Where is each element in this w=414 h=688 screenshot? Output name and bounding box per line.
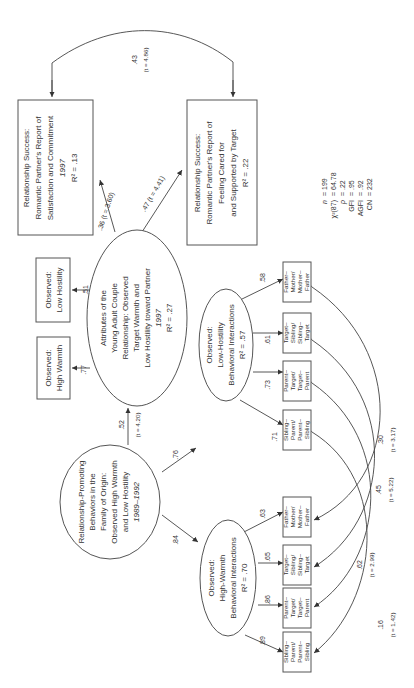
svg-text:High Warmth: High Warmth	[55, 345, 64, 391]
svg-text:= 232: = 232	[366, 178, 373, 196]
svg-text:Mother–: Mother–	[296, 505, 303, 528]
svg-text:Target/: Target/	[289, 371, 296, 390]
svg-text:n: n	[321, 200, 328, 204]
svg-text:Father–: Father–	[282, 506, 289, 528]
svg-text:Target Warmth and: Target Warmth and	[132, 284, 141, 352]
svg-text:Mother–: Mother–	[296, 270, 303, 293]
svg-text:Sibling–: Sibling–	[296, 553, 303, 576]
svg-text:Sibling–: Sibling–	[296, 321, 303, 344]
svg-text:Sibling/: Sibling/	[289, 555, 296, 576]
path-diagram: Relationship Success: Romantic Partner's…	[0, 0, 414, 688]
svg-text:Parent–: Parent–	[282, 370, 289, 392]
svg-text:Low Hostility: Low Hostility	[55, 268, 64, 313]
coef-family-high-warmth-int: .84	[172, 535, 179, 545]
svg-text:Relationship: Observed: Relationship: Observed	[121, 276, 130, 359]
svg-text:Attributes of the: Attributes of the	[99, 289, 108, 346]
svg-text:Target/: Target/	[289, 598, 296, 617]
svg-text:.30: .30	[377, 435, 384, 445]
svg-text:Parent: Parent	[303, 599, 310, 618]
svg-text:Relationship Success:: Relationship Success:	[22, 129, 31, 208]
coef-couple-low-hostility: .51	[82, 285, 89, 295]
svg-text:(t = 5.22): (t = 5.22)	[387, 478, 394, 503]
t-covariance: (t = 4.86)	[142, 48, 149, 73]
svg-text:R² = .22: R² = .22	[241, 158, 250, 187]
coef-family-low-hostility-int: .76	[172, 450, 179, 460]
svg-text:Father: Father	[303, 508, 310, 526]
svg-text:Target–: Target–	[296, 597, 303, 618]
svg-text:.89: .89	[259, 636, 266, 646]
svg-text:CN: CN	[366, 200, 373, 210]
svg-text:Sibling–: Sibling–	[282, 640, 289, 663]
svg-text:Romantic Partner's Report of: Romantic Partner's Report of	[205, 121, 214, 225]
svg-text:1997: 1997	[154, 309, 163, 327]
svg-text:χ²(87): χ²(87)	[330, 200, 338, 218]
coef-couple-high-warmth: .77	[80, 365, 87, 375]
loading-labels: .71 .73 .61 .58 .89 .86 .65 .63	[259, 273, 278, 646]
svg-text:.16: .16	[377, 620, 384, 630]
residual-correlation-labels: .16 (t = 1.42) .62 (t = 2.99) .45 (t = 5…	[356, 428, 396, 638]
svg-text:Behavioral Interactions: Behavioral Interactions	[227, 304, 236, 385]
svg-text:Relationship Success:: Relationship Success:	[193, 134, 202, 213]
svg-text:= 199: = 199	[321, 178, 328, 196]
svg-text:Mother/: Mother/	[289, 271, 296, 292]
lh-indicator-parent-target: Parent– Target/ Target– Parent	[282, 370, 310, 392]
svg-text:Mother/: Mother/	[289, 506, 296, 527]
svg-text:Parent–: Parent–	[296, 641, 303, 663]
svg-text:Parent: Parent	[303, 372, 310, 391]
svg-text:.61: .61	[264, 335, 271, 345]
svg-text:Observed:: Observed:	[207, 560, 216, 597]
fit-statistics: n = 199 χ²(87) = 64.78 p = .22 GFI = .95…	[321, 172, 373, 218]
svg-text:Target: Target	[303, 324, 310, 341]
svg-text:= 64.78: = 64.78	[330, 172, 337, 196]
svg-text:.58: .58	[259, 273, 266, 283]
svg-text:Behavioral Interactions: Behavioral Interactions	[229, 537, 238, 618]
svg-text:= .22: = .22	[339, 180, 346, 196]
svg-text:and Supported by Target: and Supported by Target	[229, 128, 238, 216]
svg-text:Satisfaction and Commitment: Satisfaction and Commitment	[46, 115, 55, 220]
svg-text:Observed:: Observed:	[205, 327, 214, 364]
svg-text:Young Adult Couple: Young Adult Couple	[110, 282, 119, 353]
svg-text:Family of Origin:: Family of Origin:	[99, 473, 108, 531]
hw-indicator-father-mother: Father– Mother/ Mother– Father	[282, 505, 310, 528]
svg-text:Sibling–: Sibling–	[282, 418, 289, 441]
lh-indicator-sibling-parent: Sibling– Parent/ Parent– Sibling	[282, 418, 310, 441]
svg-text:Parent–: Parent–	[282, 597, 289, 619]
svg-text:.71: .71	[271, 432, 278, 442]
svg-text:High-Warmth: High-Warmth	[218, 555, 227, 602]
svg-text:(t = 3.17): (t = 3.17)	[389, 428, 396, 453]
svg-text:Low-Hostility: Low-Hostility	[216, 322, 225, 367]
lh-indicator-target-sibling: Target– Sibling/ Sibling– Target	[282, 321, 310, 344]
svg-text:and Low Hostility: and Low Hostility	[121, 472, 130, 532]
svg-text:Father–: Father–	[282, 271, 289, 293]
svg-text:.86: .86	[264, 595, 271, 605]
svg-text:Observed:: Observed:	[44, 272, 53, 309]
svg-text:= .92: = .92	[357, 180, 364, 196]
svg-text:Relationship-Promoting: Relationship-Promoting	[77, 460, 86, 543]
svg-text:Parent/: Parent/	[289, 420, 296, 440]
svg-text:R² = .13: R² = .13	[70, 153, 79, 182]
svg-text:Father: Father	[303, 273, 310, 291]
svg-text:p: p	[339, 200, 347, 205]
svg-text:.73: .73	[264, 380, 271, 390]
coef-couple-cared: .47 (t = 4.41)	[140, 175, 167, 214]
t-family-couple: (t = 4.20)	[134, 413, 141, 438]
svg-text:Observed High Warmth: Observed High Warmth	[110, 460, 119, 543]
svg-text:.63: .63	[259, 509, 266, 519]
hw-indicator-parent-target: Parent– Target/ Target– Parent	[282, 597, 310, 619]
svg-text:Sibling: Sibling	[303, 420, 310, 439]
svg-text:GFI: GFI	[348, 200, 355, 212]
svg-text:Parent/: Parent/	[289, 642, 296, 662]
svg-text:Behaviors in the: Behaviors in the	[88, 473, 97, 531]
svg-text:Target–: Target–	[282, 554, 289, 575]
svg-text:(t = 2.99): (t = 2.99)	[368, 553, 375, 578]
svg-text:Parent–: Parent–	[296, 419, 303, 441]
svg-text:R² = .27: R² = .27	[165, 303, 174, 332]
coef-family-couple: .52	[118, 420, 125, 430]
lh-indicator-father-mother: Father– Mother/ Mother– Father	[282, 270, 310, 293]
hw-indicator-sibling-parent: Sibling– Parent/ Parent– Sibling	[282, 640, 310, 663]
svg-text:1989–1992: 1989–1992	[132, 481, 141, 522]
coef-covariance: .43	[131, 55, 138, 65]
observed-low-hostility-box	[36, 258, 70, 322]
svg-text:Target: Target	[303, 556, 310, 573]
svg-text:Observed:: Observed:	[44, 350, 53, 387]
